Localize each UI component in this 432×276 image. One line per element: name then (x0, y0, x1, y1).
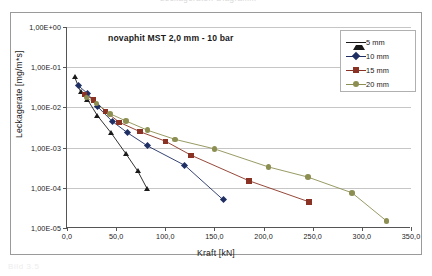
data-point-marker (123, 151, 129, 156)
data-point-marker (72, 74, 78, 79)
legend-label: 15 mm (366, 66, 389, 75)
legend-marker-icon (346, 37, 366, 47)
chart-legend[interactable]: 5 mm10 mm15 mm20 mm (340, 30, 416, 92)
data-point-marker (108, 130, 114, 135)
y-tick-label: 1,00E-03 (31, 143, 61, 152)
x-tick-label: 100,0 (156, 232, 175, 241)
x-tick-label: 150,0 (205, 232, 224, 241)
legend-label: 5 mm (366, 38, 385, 47)
data-point-marker (188, 153, 193, 158)
legend-item-15-mm[interactable]: 15 mm (346, 63, 415, 77)
y-tick-label: 1,00E-01 (31, 63, 61, 72)
legend-item-20-mm[interactable]: 20 mm (346, 77, 415, 91)
y-tick-label: 1,00E-02 (31, 103, 61, 112)
x-tick-label: 50,0 (109, 232, 123, 241)
y-tick-label: 1,00E+00 (29, 23, 61, 32)
data-point-marker (266, 164, 272, 170)
x-axis-title: Kraft [kN] (0, 248, 432, 258)
chart-figure: Leckageraten-Diagramm Leckagerate [mg/m*… (0, 0, 432, 276)
data-point-marker (163, 139, 168, 144)
data-point-marker (116, 120, 121, 125)
series-line-20-mm (87, 98, 387, 221)
data-point-marker (123, 118, 129, 124)
legend-label: 10 mm (366, 52, 389, 61)
data-point-marker (349, 190, 355, 196)
bottom-clipped-text: Bild 3.5 (8, 262, 148, 274)
legend-marker-icon (346, 65, 366, 75)
data-point-marker (384, 218, 390, 224)
data-point-marker (137, 129, 142, 134)
x-tick-label: 350,0 (402, 232, 421, 241)
data-point-marker (107, 111, 113, 117)
data-point-marker (305, 174, 311, 180)
data-point-marker (94, 113, 100, 118)
legend-label: 20 mm (366, 80, 389, 89)
data-point-marker (135, 168, 141, 173)
series-line-10-mm (79, 86, 223, 200)
legend-marker-icon (346, 51, 366, 61)
legend-marker-icon (346, 79, 366, 89)
legend-item-10-mm[interactable]: 10 mm (346, 49, 415, 63)
x-tick-mark (411, 227, 412, 231)
top-clipped-text: Leckageraten-Diagramm (0, 0, 432, 11)
data-point-marker (212, 146, 218, 152)
data-point-marker (144, 186, 150, 191)
y-tick-label: 1,00E-05 (31, 224, 61, 233)
x-tick-label: 250,0 (303, 232, 322, 241)
data-point-marker (306, 199, 311, 204)
top-clipped-text-label: Leckageraten-Diagramm (160, 0, 256, 3)
series-line-15-mm (85, 94, 309, 201)
data-point-marker (246, 178, 251, 183)
x-tick-label: 300,0 (353, 232, 372, 241)
x-tick-label: 200,0 (254, 232, 273, 241)
y-axis-title: Leckagerate [mg/m*s] (14, 50, 24, 138)
x-tick-label: 0,0 (62, 232, 72, 241)
data-point-marker (172, 137, 178, 143)
legend-item-5-mm[interactable]: 5 mm (346, 35, 415, 49)
y-tick-label: 1,00E-04 (31, 183, 61, 192)
bottom-clipped-text-label: Bild 3.5 (8, 262, 39, 271)
